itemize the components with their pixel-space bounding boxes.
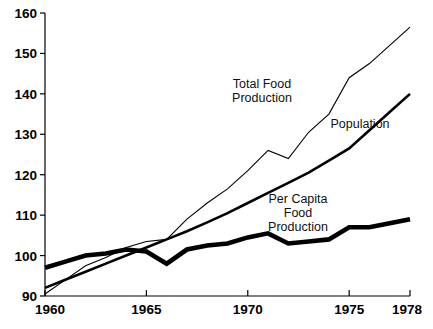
x-axis-ticks — [45, 290, 410, 296]
chart-container: 90100110120130140150160 1960196519701975… — [0, 0, 433, 329]
y-tick-label: 100 — [14, 249, 37, 264]
y-tick-label: 150 — [14, 46, 37, 61]
index-line-chart: 90100110120130140150160 1960196519701975… — [0, 0, 433, 329]
series-annotation-labels: Total FoodProductionPopulationPer Capita… — [232, 77, 389, 234]
y-axis-ticks — [40, 13, 45, 296]
y-tick-label: 120 — [14, 168, 37, 183]
series-label-line: Production — [268, 220, 328, 234]
series-label: Total FoodProduction — [232, 77, 292, 105]
y-tick-label: 140 — [14, 87, 37, 102]
x-axis-tick-labels: 19601965197019751978 — [35, 302, 422, 317]
y-tick-label: 110 — [15, 208, 37, 223]
x-tick-label: 1975 — [334, 302, 365, 317]
x-tick-label: 1970 — [233, 302, 263, 317]
series-label-line: Food — [284, 206, 313, 220]
series-label: Population — [330, 117, 389, 131]
series-label-line: Total Food — [233, 77, 291, 91]
x-tick-label: 1960 — [35, 302, 65, 317]
y-tick-label: 130 — [14, 127, 37, 142]
y-tick-label: 160 — [14, 6, 37, 21]
y-axis-tick-labels: 90100110120130140150160 — [14, 6, 37, 304]
series-label: Per CapitaFoodProduction — [268, 192, 328, 234]
data-series-group — [45, 27, 410, 294]
series-label-line: Population — [330, 117, 389, 131]
x-tick-label: 1965 — [131, 302, 162, 317]
series-label-line: Production — [232, 91, 292, 105]
x-tick-label: 1978 — [392, 302, 423, 317]
series-label-line: Per Capita — [268, 192, 327, 206]
